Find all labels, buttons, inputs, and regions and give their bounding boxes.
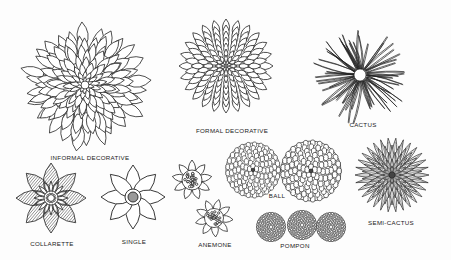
anemone-flower-2 <box>194 198 234 238</box>
label-semi-cactus: SEMI-CACTUS <box>368 219 414 226</box>
informal-decorative-flower <box>19 19 151 151</box>
label-collarette: COLLARETTE <box>30 240 74 247</box>
pompon-flower-2 <box>287 210 317 240</box>
anemone-flower-1 <box>171 159 213 201</box>
label-informal-decorative: INFORMAL DECORATIVE <box>51 154 130 161</box>
dahlia-forms-illustration: INFORMAL DECORATIVE FORMAL DECORATIVE CA… <box>0 0 451 260</box>
ball-flower-1 <box>225 142 281 198</box>
cactus-flower <box>308 23 412 127</box>
label-formal-decorative: FORMAL DECORATIVE <box>196 127 268 134</box>
label-cactus: CACTUS <box>349 121 376 128</box>
ball-flower-2 <box>280 140 342 202</box>
single-flower <box>100 164 166 230</box>
label-anemone: ANEMONE <box>198 241 231 248</box>
semi-cactus-flower <box>354 137 430 213</box>
pompon-flower-3 <box>316 212 346 242</box>
collarette-flower <box>15 162 87 234</box>
formal-decorative-flower <box>178 18 274 114</box>
label-single: SINGLE <box>122 238 147 245</box>
pompon-flower-1 <box>256 212 286 242</box>
label-ball: BALL <box>269 192 285 199</box>
label-pompon: POMPON <box>280 242 309 249</box>
